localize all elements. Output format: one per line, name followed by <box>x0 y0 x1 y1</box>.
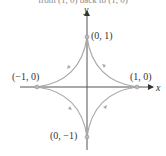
direction-arrow-icon <box>103 105 107 109</box>
point-0-1 <box>85 35 89 39</box>
direction-arrow-icon <box>67 65 71 69</box>
y-axis-label: y <box>83 4 89 15</box>
point-0-neg1 <box>85 135 89 139</box>
point-1-0 <box>135 85 139 89</box>
direction-arrow-icon <box>102 64 106 68</box>
x-axis-label: x <box>155 82 161 93</box>
direction-arrow-icon <box>68 106 72 110</box>
point-neg1-0 <box>35 85 39 89</box>
label-0-neg1: (0, −1) <box>50 130 77 142</box>
label-0-1: (0, 1) <box>91 30 113 42</box>
label-neg1-0: (−1, 0) <box>12 71 39 83</box>
label-1-0: (1, 0) <box>130 71 152 83</box>
astroid-diagram: y x (0, 1) (1, 0) (−1, 0) (0, −1) <box>0 0 166 156</box>
